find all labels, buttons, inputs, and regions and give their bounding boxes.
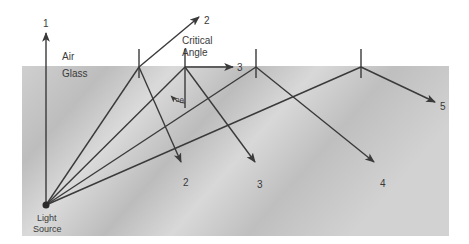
- ray-5-reflected-label: 5: [440, 101, 446, 112]
- critical-angle-label-2: Angle: [182, 47, 208, 58]
- ray-3-surface-label: 3: [237, 62, 243, 73]
- light-source-label-2: Source: [33, 224, 62, 234]
- glass-label: Glass: [62, 68, 88, 79]
- ray-4-reflected-label: 4: [380, 178, 386, 189]
- light-source-label-1: Light: [37, 213, 57, 223]
- ray-2-exit-label: 2: [204, 15, 210, 26]
- light-source-dot: [43, 202, 50, 209]
- ray-1-label: 1: [43, 18, 49, 29]
- glass-medium: [22, 66, 449, 236]
- critical-angle-label-1: Critical: [182, 35, 213, 46]
- air-label: Air: [62, 51, 75, 62]
- total-internal-reflection-diagram: Air Glass 1 2 Critical Angle 3: [0, 0, 469, 244]
- ray-3-reflected-label: 3: [257, 179, 263, 190]
- theta-c-label: θc: [176, 96, 184, 105]
- ray-2-reflected-label: 2: [183, 177, 189, 188]
